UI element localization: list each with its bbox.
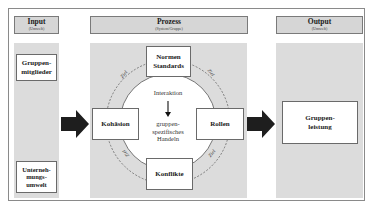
input-header: Input (Umwelt) (14, 16, 59, 34)
process-header: Prozess (System/Gruppe) (90, 16, 248, 34)
process-box-roles: Rollen (196, 108, 244, 140)
output-subtitle: (Umwelt) (277, 26, 362, 31)
input-box-company-environment: Unterneh- mungs- umwelt (16, 161, 57, 193)
center-interaction-text: Interaktion (138, 89, 198, 97)
output-title: Output (277, 18, 362, 26)
output-header: Output (Umwelt) (276, 16, 363, 34)
input-subtitle: (Umwelt) (15, 26, 58, 31)
input-title: Input (15, 18, 58, 26)
center-group-action-text: gruppen- spezifisches Handeln (138, 120, 198, 143)
process-to-output-arrow-icon (247, 110, 275, 138)
output-box-group-performance: Gruppen- leistung (282, 101, 358, 144)
input-to-process-arrow-icon (61, 110, 89, 138)
input-box-group-members: Gruppen- mitglieder (16, 54, 57, 81)
process-box-cohesion: Kohäsion (92, 108, 139, 140)
process-subtitle: (System/Gruppe) (91, 26, 247, 31)
process-box-norms-standards: Normen Standards (146, 46, 191, 77)
process-box-conflicts: Konflikte (146, 158, 193, 190)
process-title: Prozess (91, 18, 247, 26)
